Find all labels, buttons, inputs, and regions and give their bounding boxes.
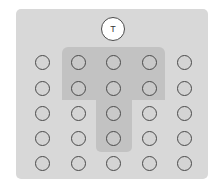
seat-icon	[106, 55, 121, 70]
seat-icon	[71, 131, 86, 146]
seat-icon	[177, 81, 192, 96]
teacher-seat: T	[101, 17, 125, 41]
seat-icon	[71, 106, 86, 121]
seat-icon	[142, 106, 157, 121]
seat-icon	[71, 156, 86, 171]
seat-icon	[71, 81, 86, 96]
seat-icon	[177, 55, 192, 70]
seat-icon	[71, 55, 86, 70]
seat-icon	[35, 106, 50, 121]
seat-icon	[177, 156, 192, 171]
seat-icon	[142, 131, 157, 146]
seat-icon	[177, 106, 192, 121]
seat-icon	[106, 156, 121, 171]
seat-icon	[106, 106, 121, 121]
seat-icon	[106, 81, 121, 96]
seat-icon	[35, 81, 50, 96]
seat-icon	[177, 131, 192, 146]
seat-icon	[35, 131, 50, 146]
seat-icon	[142, 81, 157, 96]
teacher-label: T	[110, 24, 116, 34]
seat-icon	[106, 131, 121, 146]
seat-icon	[35, 55, 50, 70]
seat-icon	[142, 156, 157, 171]
seat-icon	[142, 55, 157, 70]
seat-icon	[35, 156, 50, 171]
